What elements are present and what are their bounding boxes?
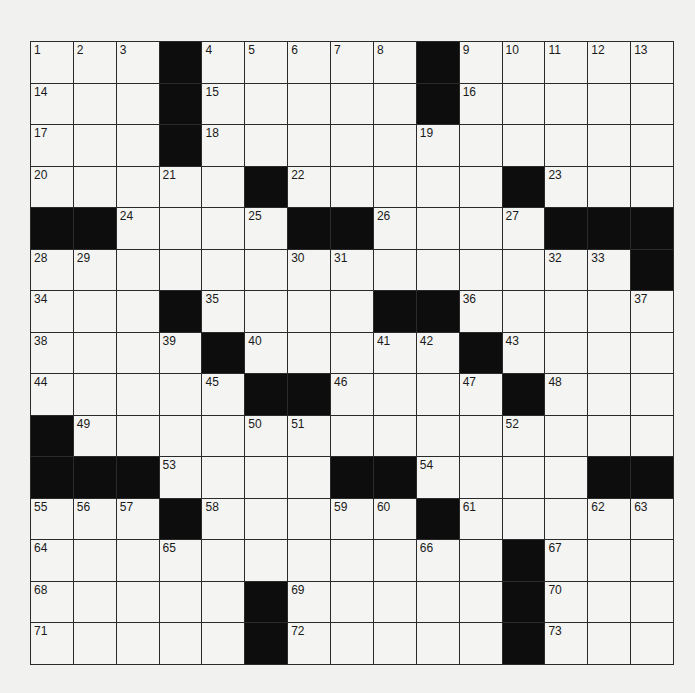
grid-cell[interactable]: 20	[31, 167, 73, 208]
grid-cell[interactable]: 9	[460, 42, 502, 83]
grid-cell[interactable]	[202, 208, 244, 249]
grid-cell[interactable]	[631, 540, 673, 581]
grid-cell[interactable]: 64	[31, 540, 73, 581]
grid-cell[interactable]	[417, 167, 459, 208]
grid-cell[interactable]	[245, 125, 287, 166]
grid-cell[interactable]	[545, 125, 587, 166]
grid-cell[interactable]: 71	[31, 623, 73, 664]
grid-cell[interactable]	[288, 540, 330, 581]
grid-cell[interactable]	[503, 499, 545, 540]
grid-cell[interactable]	[631, 84, 673, 125]
grid-cell[interactable]: 35	[202, 291, 244, 332]
grid-cell[interactable]	[160, 374, 202, 415]
grid-cell[interactable]: 37	[631, 291, 673, 332]
grid-cell[interactable]	[588, 374, 630, 415]
grid-cell[interactable]	[417, 374, 459, 415]
grid-cell[interactable]	[160, 208, 202, 249]
grid-cell[interactable]: 18	[202, 125, 244, 166]
grid-cell[interactable]: 69	[288, 582, 330, 623]
grid-cell[interactable]	[331, 333, 373, 374]
grid-cell[interactable]	[74, 540, 116, 581]
grid-cell[interactable]	[503, 250, 545, 291]
grid-cell[interactable]	[460, 582, 502, 623]
grid-cell[interactable]	[288, 457, 330, 498]
grid-cell[interactable]: 30	[288, 250, 330, 291]
grid-cell[interactable]: 47	[460, 374, 502, 415]
grid-cell[interactable]: 10	[503, 42, 545, 83]
grid-cell[interactable]	[288, 291, 330, 332]
grid-cell[interactable]	[631, 623, 673, 664]
grid-cell[interactable]: 21	[160, 167, 202, 208]
grid-cell[interactable]: 33	[588, 250, 630, 291]
grid-cell[interactable]	[374, 374, 416, 415]
grid-cell[interactable]: 8	[374, 42, 416, 83]
grid-cell[interactable]: 67	[545, 540, 587, 581]
grid-cell[interactable]	[117, 582, 159, 623]
grid-cell[interactable]: 70	[545, 582, 587, 623]
grid-cell[interactable]: 42	[417, 333, 459, 374]
grid-cell[interactable]: 2	[74, 42, 116, 83]
grid-cell[interactable]	[588, 125, 630, 166]
grid-cell[interactable]	[160, 582, 202, 623]
grid-cell[interactable]	[74, 374, 116, 415]
grid-cell[interactable]: 12	[588, 42, 630, 83]
grid-cell[interactable]: 59	[331, 499, 373, 540]
grid-cell[interactable]: 63	[631, 499, 673, 540]
grid-cell[interactable]: 11	[545, 42, 587, 83]
grid-cell[interactable]	[374, 540, 416, 581]
grid-cell[interactable]: 62	[588, 499, 630, 540]
grid-cell[interactable]: 6	[288, 42, 330, 83]
grid-cell[interactable]	[245, 457, 287, 498]
grid-cell[interactable]	[503, 291, 545, 332]
grid-cell[interactable]	[160, 250, 202, 291]
grid-cell[interactable]: 27	[503, 208, 545, 249]
grid-cell[interactable]: 43	[503, 333, 545, 374]
grid-cell[interactable]: 38	[31, 333, 73, 374]
grid-cell[interactable]	[460, 208, 502, 249]
grid-cell[interactable]	[460, 416, 502, 457]
grid-cell[interactable]: 41	[374, 333, 416, 374]
grid-cell[interactable]: 52	[503, 416, 545, 457]
grid-cell[interactable]	[545, 416, 587, 457]
grid-cell[interactable]	[588, 416, 630, 457]
grid-cell[interactable]: 36	[460, 291, 502, 332]
grid-cell[interactable]	[503, 457, 545, 498]
grid-cell[interactable]: 1	[31, 42, 73, 83]
grid-cell[interactable]: 61	[460, 499, 502, 540]
grid-cell[interactable]	[374, 125, 416, 166]
grid-cell[interactable]	[588, 623, 630, 664]
grid-cell[interactable]: 34	[31, 291, 73, 332]
grid-cell[interactable]	[588, 333, 630, 374]
grid-cell[interactable]	[503, 125, 545, 166]
grid-cell[interactable]	[117, 540, 159, 581]
grid-cell[interactable]	[74, 167, 116, 208]
grid-cell[interactable]: 58	[202, 499, 244, 540]
grid-cell[interactable]: 3	[117, 42, 159, 83]
grid-cell[interactable]: 4	[202, 42, 244, 83]
grid-cell[interactable]	[374, 167, 416, 208]
grid-cell[interactable]: 53	[160, 457, 202, 498]
grid-cell[interactable]	[74, 291, 116, 332]
grid-cell[interactable]: 60	[374, 499, 416, 540]
grid-cell[interactable]	[460, 457, 502, 498]
grid-cell[interactable]	[74, 582, 116, 623]
grid-cell[interactable]	[117, 333, 159, 374]
grid-cell[interactable]: 54	[417, 457, 459, 498]
grid-cell[interactable]	[460, 540, 502, 581]
grid-cell[interactable]: 48	[545, 374, 587, 415]
grid-cell[interactable]: 66	[417, 540, 459, 581]
grid-cell[interactable]	[588, 84, 630, 125]
grid-cell[interactable]	[588, 582, 630, 623]
grid-cell[interactable]	[245, 291, 287, 332]
grid-cell[interactable]: 68	[31, 582, 73, 623]
grid-cell[interactable]	[202, 250, 244, 291]
grid-cell[interactable]	[288, 499, 330, 540]
grid-cell[interactable]: 65	[160, 540, 202, 581]
grid-cell[interactable]: 57	[117, 499, 159, 540]
grid-cell[interactable]	[588, 540, 630, 581]
grid-cell[interactable]	[160, 623, 202, 664]
grid-cell[interactable]	[631, 333, 673, 374]
grid-cell[interactable]	[460, 167, 502, 208]
grid-cell[interactable]: 7	[331, 42, 373, 83]
grid-cell[interactable]	[417, 416, 459, 457]
